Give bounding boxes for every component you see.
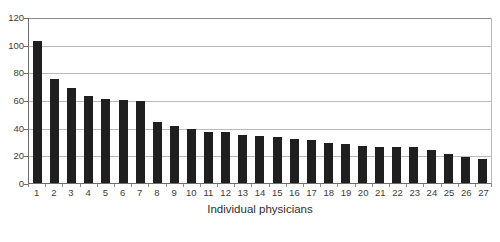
x-tick-label-26: 26 xyxy=(458,187,475,201)
bar[interactable] xyxy=(392,147,401,183)
bar-slot xyxy=(115,18,132,183)
bar[interactable] xyxy=(136,101,145,183)
x-tick-label-10: 10 xyxy=(183,187,200,201)
bar-slot xyxy=(440,18,457,183)
y-tick-label-20: 20 xyxy=(0,151,24,161)
x-tick-label-4: 4 xyxy=(80,187,97,201)
x-tick-label-2: 2 xyxy=(45,187,62,201)
x-axis-labels: 1234567891011121314151617181920212223242… xyxy=(28,187,492,201)
x-tick-label-25: 25 xyxy=(441,187,458,201)
bar-slot xyxy=(405,18,422,183)
bar-slot xyxy=(46,18,63,183)
bar[interactable] xyxy=(187,129,196,183)
bar-slot xyxy=(166,18,183,183)
bar[interactable] xyxy=(478,159,487,183)
y-tick-label-0: 0 xyxy=(0,179,24,189)
bar[interactable] xyxy=(50,79,59,183)
bar-slot xyxy=(29,18,46,183)
bar-chart: 020406080100120 123456789101112131415161… xyxy=(0,0,500,242)
x-tick-label-11: 11 xyxy=(200,187,217,201)
bar[interactable] xyxy=(101,99,110,183)
bar-slot xyxy=(80,18,97,183)
x-tick-label-14: 14 xyxy=(251,187,268,201)
bar-slot xyxy=(149,18,166,183)
x-tick-label-6: 6 xyxy=(114,187,131,201)
bar[interactable] xyxy=(461,157,470,183)
x-tick-label-9: 9 xyxy=(166,187,183,201)
bar[interactable] xyxy=(255,136,264,183)
bar-slot xyxy=(132,18,149,183)
bar[interactable] xyxy=(238,135,247,183)
y-tick-label-100: 100 xyxy=(0,41,24,51)
bar[interactable] xyxy=(204,132,213,183)
y-tick-label-80: 80 xyxy=(0,68,24,78)
bar-slot xyxy=(251,18,268,183)
x-tick-label-23: 23 xyxy=(406,187,423,201)
bar[interactable] xyxy=(427,150,436,183)
bar-slot xyxy=(63,18,80,183)
bar-slot xyxy=(388,18,405,183)
y-tick-label-40: 40 xyxy=(0,124,24,134)
x-tick-label-5: 5 xyxy=(97,187,114,201)
y-tick-label-60: 60 xyxy=(0,96,24,106)
x-tick-label-8: 8 xyxy=(148,187,165,201)
bar-slot xyxy=(97,18,114,183)
bar-slot xyxy=(337,18,354,183)
x-axis-title: Individual physicians xyxy=(28,202,492,216)
bar-slot xyxy=(474,18,491,183)
x-tick-label-21: 21 xyxy=(372,187,389,201)
bar[interactable] xyxy=(375,147,384,183)
bar[interactable] xyxy=(358,146,367,183)
bars-layer xyxy=(29,18,491,183)
y-axis: 020406080100120 xyxy=(0,0,24,202)
bar-slot xyxy=(371,18,388,183)
bar[interactable] xyxy=(290,139,299,183)
bar-slot xyxy=(183,18,200,183)
bar[interactable] xyxy=(273,137,282,183)
bar-slot xyxy=(354,18,371,183)
x-tick-label-24: 24 xyxy=(423,187,440,201)
bar-slot xyxy=(320,18,337,183)
x-tick-label-19: 19 xyxy=(337,187,354,201)
bar-slot xyxy=(234,18,251,183)
x-tick-label-12: 12 xyxy=(217,187,234,201)
bar[interactable] xyxy=(221,132,230,183)
x-tick-label-17: 17 xyxy=(303,187,320,201)
bar[interactable] xyxy=(67,88,76,183)
bar[interactable] xyxy=(324,143,333,183)
x-tick-label-18: 18 xyxy=(320,187,337,201)
bar[interactable] xyxy=(84,96,93,183)
plot-area xyxy=(28,18,492,184)
x-tick-label-13: 13 xyxy=(234,187,251,201)
x-tick-label-7: 7 xyxy=(131,187,148,201)
x-tick-label-22: 22 xyxy=(389,187,406,201)
x-tick-label-16: 16 xyxy=(286,187,303,201)
bar-slot xyxy=(423,18,440,183)
bar[interactable] xyxy=(153,122,162,183)
x-tick-label-27: 27 xyxy=(475,187,492,201)
bar-slot xyxy=(217,18,234,183)
bar[interactable] xyxy=(119,100,128,183)
x-tick-label-1: 1 xyxy=(28,187,45,201)
bar[interactable] xyxy=(444,154,453,183)
bar[interactable] xyxy=(33,41,42,183)
bar-slot xyxy=(457,18,474,183)
bar[interactable] xyxy=(307,140,316,183)
bar[interactable] xyxy=(170,126,179,183)
bar-slot xyxy=(286,18,303,183)
x-tick-label-3: 3 xyxy=(62,187,79,201)
x-tick-label-20: 20 xyxy=(355,187,372,201)
x-tick-label-15: 15 xyxy=(269,187,286,201)
bar-slot xyxy=(269,18,286,183)
bar-slot xyxy=(303,18,320,183)
bar-slot xyxy=(200,18,217,183)
bar[interactable] xyxy=(409,147,418,183)
y-tick-label-120: 120 xyxy=(0,13,24,23)
bar[interactable] xyxy=(341,144,350,183)
